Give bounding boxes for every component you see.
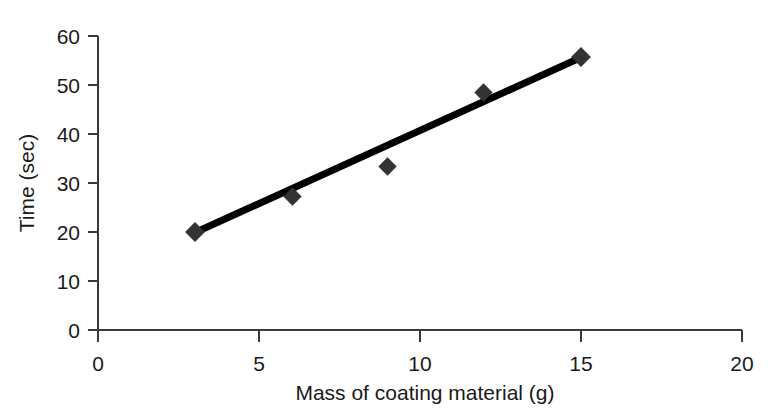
y-axis-title: Time (sec) (15, 134, 38, 232)
y-tick-label-30: 30 (57, 172, 80, 195)
x-tick-label-10: 10 (408, 352, 431, 375)
scatter-plot: 0 10 20 30 40 50 60 0 5 10 15 20 Mass of… (0, 0, 775, 412)
chart-container: 0 10 20 30 40 50 60 0 5 10 15 20 Mass of… (0, 0, 775, 412)
y-tick-label-10: 10 (57, 270, 80, 293)
y-tick-label-60: 60 (57, 25, 80, 48)
x-tick-label-5: 5 (253, 352, 265, 375)
y-tick-label-20: 20 (57, 221, 80, 244)
x-tick-label-15: 15 (569, 352, 592, 375)
x-tick-label-0: 0 (92, 352, 104, 375)
y-tick-label-40: 40 (57, 123, 80, 146)
y-tick-label-50: 50 (57, 74, 80, 97)
y-tick-label-0: 0 (68, 319, 80, 342)
plot-background (0, 0, 775, 412)
x-tick-label-20: 20 (730, 352, 753, 375)
x-axis-title: Mass of coating material (g) (295, 381, 554, 404)
